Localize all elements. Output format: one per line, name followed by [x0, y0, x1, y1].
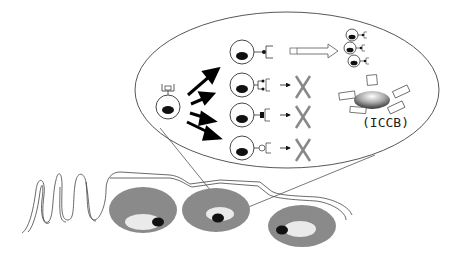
cell-double-ligand: [230, 73, 290, 97]
elimination-cross-3: [296, 139, 310, 161]
tissue-cell-2-magnified-source: [182, 188, 250, 232]
magnified-region-ellipse: [135, 12, 439, 168]
iccb-label: (ICCB): [362, 115, 409, 130]
progenitor-cell: [156, 84, 180, 119]
expanded-clones: [344, 29, 369, 67]
iccb-complex: [339, 75, 410, 114]
tissue-cell-3: [268, 205, 336, 247]
selection-arrows: [187, 69, 219, 139]
elimination-cross-1: [296, 76, 310, 98]
selected-cell-high-affinity: [230, 40, 273, 64]
cell-bound-square: [230, 103, 290, 127]
elimination-cross-2: [296, 106, 310, 128]
cell-open-circle: [230, 136, 290, 160]
tissue-cell-1: [109, 187, 177, 233]
diagram-canvas: (ICCB): [0, 0, 449, 255]
expansion-arrow: [290, 44, 338, 58]
